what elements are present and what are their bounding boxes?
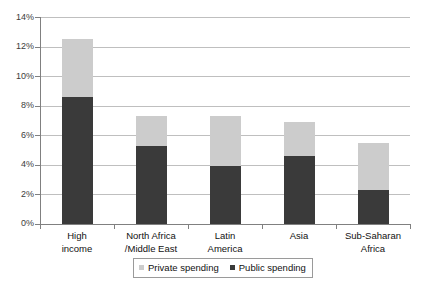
legend-item-public: Public spending xyxy=(230,262,306,273)
legend-item-private: Private spending xyxy=(139,262,219,273)
x-axis-line xyxy=(40,224,411,225)
x-axis-label-3: Asia xyxy=(262,230,336,243)
plot-area xyxy=(40,17,410,224)
x-axis-label-line: Latin xyxy=(188,230,262,243)
x-axis-label-line: Africa xyxy=(336,243,410,256)
bar-asia[interactable] xyxy=(284,122,315,224)
x-tick-0 xyxy=(40,224,41,229)
bar-segment-private[interactable] xyxy=(62,39,93,97)
bar-segment-public[interactable] xyxy=(210,166,241,224)
y-axis-label-12: 12% xyxy=(1,42,34,51)
legend-swatch-public-icon xyxy=(230,265,235,270)
x-tick-4 xyxy=(336,224,337,229)
x-tick-2 xyxy=(188,224,189,229)
chart-legend: Private spending Public spending xyxy=(133,258,313,278)
y-axis-label-2: 2% xyxy=(1,190,34,199)
y-axis-label-4: 4% xyxy=(1,160,34,169)
x-tick-3 xyxy=(262,224,263,229)
bar-segment-private[interactable] xyxy=(210,116,241,166)
x-axis-label-line: North Africa xyxy=(114,230,188,243)
legend-label-private: Private spending xyxy=(148,262,219,273)
bar-north-africa-middle-east[interactable] xyxy=(136,116,167,224)
bar-sub-saharan-africa[interactable] xyxy=(358,143,389,224)
bar-segment-public[interactable] xyxy=(62,97,93,224)
y-axis-label-8: 8% xyxy=(1,101,34,110)
bar-segment-public[interactable] xyxy=(358,190,389,224)
y-axis-label-6: 6% xyxy=(1,131,34,140)
x-axis-label-2: LatinAmerica xyxy=(188,230,262,255)
bar-segment-private[interactable] xyxy=(136,116,167,146)
y-axis-label-10: 10% xyxy=(1,72,34,81)
bar-segment-public[interactable] xyxy=(136,146,167,224)
bar-high-income[interactable] xyxy=(62,39,93,224)
legend-swatch-private-icon xyxy=(139,265,144,270)
x-axis-label-4: Sub-SaharanAfrica xyxy=(336,230,410,255)
y-axis-line xyxy=(40,17,41,225)
x-axis-label-1: North Africa/Middle East xyxy=(114,230,188,255)
bar-latin-america[interactable] xyxy=(210,116,241,224)
x-tick-1 xyxy=(114,224,115,229)
x-axis-label-line: income xyxy=(40,243,114,256)
x-axis-label-line: /Middle East xyxy=(114,243,188,256)
bars-layer xyxy=(40,17,410,224)
x-tick-5 xyxy=(410,224,411,229)
y-axis-labels: 14% 12% 10% 8% 6% 4% 2% 0% xyxy=(0,0,34,288)
chart-container: 14% 12% 10% 8% 6% 4% 2% 0% HighincomeNor… xyxy=(0,0,422,288)
x-axis-label-line: High xyxy=(40,230,114,243)
x-axis-label-line: Sub-Saharan xyxy=(336,230,410,243)
bar-segment-private[interactable] xyxy=(284,122,315,156)
x-axis-label-0: Highincome xyxy=(40,230,114,255)
x-axis-label-line: Asia xyxy=(262,230,336,243)
x-axis-label-line: America xyxy=(188,243,262,256)
bar-segment-public[interactable] xyxy=(284,156,315,224)
y-axis-label-14: 14% xyxy=(1,13,34,22)
legend-label-public: Public spending xyxy=(239,262,306,273)
y-axis-label-0: 0% xyxy=(1,219,34,228)
bar-segment-private[interactable] xyxy=(358,143,389,190)
